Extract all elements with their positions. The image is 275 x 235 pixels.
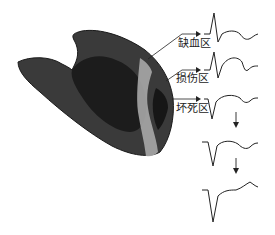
heart-wall-illustration: [18, 30, 173, 156]
label-necrosis-zone: 坏死区: [176, 103, 209, 115]
label-injury-zone: 损伤区: [176, 73, 209, 85]
ecg-evolution-2: [202, 182, 258, 222]
ecg-necrosis: [204, 95, 258, 119]
ecg-ischemia: [204, 13, 258, 42]
label-ischemia-zone: 缺血区: [178, 38, 211, 50]
mi-zones-diagram: 缺血区 损伤区 坏死区: [0, 0, 275, 235]
ecg-evolution-1: [202, 141, 258, 166]
ecg-injury: [204, 52, 258, 78]
